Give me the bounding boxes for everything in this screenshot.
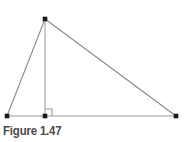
vertex-apex-dot xyxy=(43,17,48,22)
hypotenuse-line xyxy=(45,19,176,116)
vertex-base-right-dot xyxy=(174,114,179,119)
vertex-base-left-dot xyxy=(5,114,10,119)
vertex-altitude-foot-dot xyxy=(43,114,48,119)
left-side-line xyxy=(7,19,45,116)
triangle-sides xyxy=(7,19,176,116)
figure-container: Figure 1.47 xyxy=(0,0,184,142)
geometry-diagram xyxy=(0,0,184,142)
figure-caption: Figure 1.47 xyxy=(3,123,61,138)
vertex-dots xyxy=(5,17,179,119)
